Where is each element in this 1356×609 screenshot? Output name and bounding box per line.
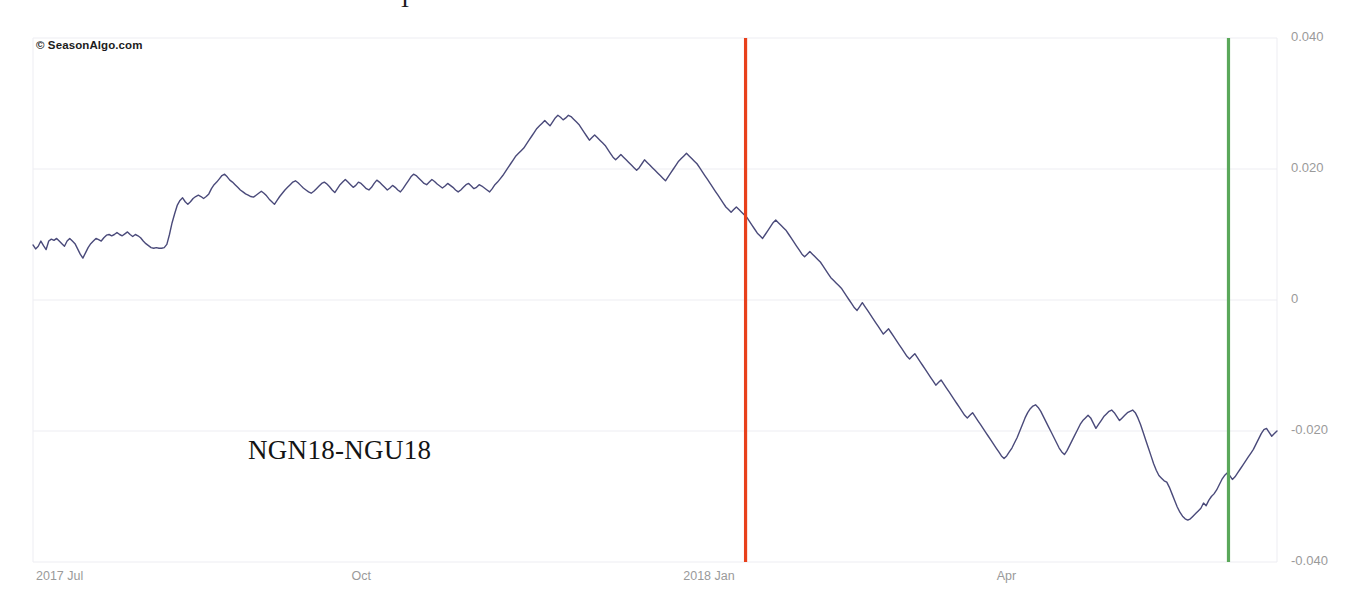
gridlines bbox=[33, 38, 1277, 562]
y-axis-tick-label: 0 bbox=[1291, 291, 1298, 306]
series-label: NGN18-NGU18 bbox=[248, 435, 431, 466]
chart-canvas bbox=[0, 0, 1356, 609]
y-axis-tick-label: -0.020 bbox=[1291, 422, 1328, 437]
seasonal-spread-chart: T © SeasonAlgo.com NGN18-NGU18 0.0400.02… bbox=[0, 0, 1356, 609]
y-axis-tick-label: 0.040 bbox=[1291, 29, 1324, 44]
x-axis-tick-label: 2018 Jan bbox=[683, 569, 734, 583]
x-axis-tick-label: Oct bbox=[352, 569, 371, 583]
x-axis-tick-label: 2017 Jul bbox=[36, 569, 83, 583]
watermark-seasonalgo: © SeasonAlgo.com bbox=[36, 39, 143, 51]
y-axis-tick-label: -0.040 bbox=[1291, 553, 1328, 568]
y-axis-tick-label: 0.020 bbox=[1291, 160, 1324, 175]
x-axis-tick-label: Apr bbox=[997, 569, 1016, 583]
series-line bbox=[33, 115, 1277, 520]
